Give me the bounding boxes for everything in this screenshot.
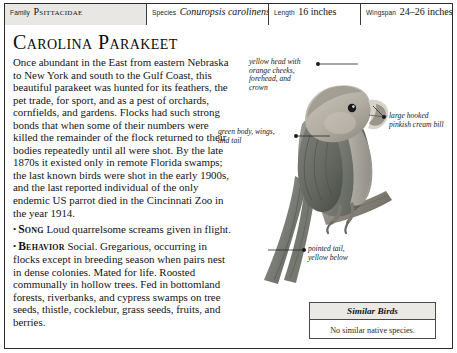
field-guide-page: Family Psittacidae Species Conuropsis ca… (0, 0, 457, 353)
callout-body: green body, wings, and tail (218, 128, 292, 145)
leader-dot-body (294, 134, 298, 138)
similar-birds-text: No similar native species. (310, 320, 435, 340)
callout-bill: large hooked pinkish cream bill (389, 112, 455, 129)
similar-birds-heading: Similar Birds (310, 303, 435, 320)
callout-tail: pointed tail, yellow below (308, 245, 384, 262)
leader-dot-tail (302, 248, 306, 252)
callout-leader-lines (0, 0, 457, 353)
callout-head: yellow head with orange cheeks, forehead… (249, 58, 335, 92)
similar-birds-box: Similar Birds No similar native species. (309, 302, 436, 339)
